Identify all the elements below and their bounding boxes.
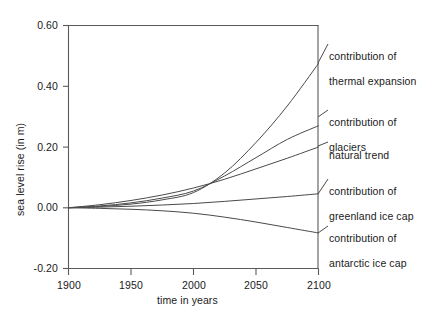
x-tick-label-2000: 2000 [169,279,219,291]
y-tick-label--0.20: -0.20 [18,262,58,274]
series-label-antarctic-line2: antarctic ice cap [329,257,407,269]
series-label-greenland-ice-cap: contribution of greenland ice cap [329,172,414,222]
series-label-thermal-expansion: contribution of thermal expansion [329,37,417,87]
series-label-natural-trend: natural trend [329,136,389,161]
x-axis-title: time in years [157,294,218,306]
series-curve-natural-trend [69,147,319,208]
y-axis-title: sea level rise (in m) [14,123,26,216]
series-curve-contribution-of-thermal-expansion [69,63,319,207]
y-tick-label-0.40: 0.40 [22,80,58,92]
y-tick-label-0.20: 0.20 [22,141,58,153]
series-label-thermal-line2: thermal expansion [329,75,417,87]
chart-figure: 0.60 0.40 0.20 0.00 -0.20 1900 1950 2000… [0,0,442,316]
series-label-glaciers-line1: contribution of [329,116,396,128]
series-label-natural-line1: natural trend [329,149,389,161]
leader-glaciers [318,110,328,117]
y-tick-label-0.60: 0.60 [22,19,58,31]
x-tick-label-2100: 2100 [294,279,344,291]
x-tick-label-1950: 1950 [106,279,156,291]
x-tick-label-1900: 1900 [44,279,94,291]
y-tick-label-0.00: 0.00 [22,201,58,213]
leader-natural [318,142,328,146]
series-curve-contribution-of-antarctic-ice-cap [69,208,319,233]
series-curve-contribution-of-glaciers [69,126,319,208]
annotation-leader-lines [318,44,328,233]
x-tick-label-2050: 2050 [231,279,281,291]
leader-antarctic [318,226,328,233]
data-curves [69,63,319,232]
series-label-greenland-line1: contribution of [329,185,396,197]
series-label-antarctic-line1: contribution of [329,232,396,244]
series-label-thermal-line1: contribution of [329,50,396,62]
series-label-antarctic-ice-cap: contribution of antarctic ice cap [329,219,407,269]
leader-thermal [318,44,328,63]
leader-greenland [318,179,328,194]
